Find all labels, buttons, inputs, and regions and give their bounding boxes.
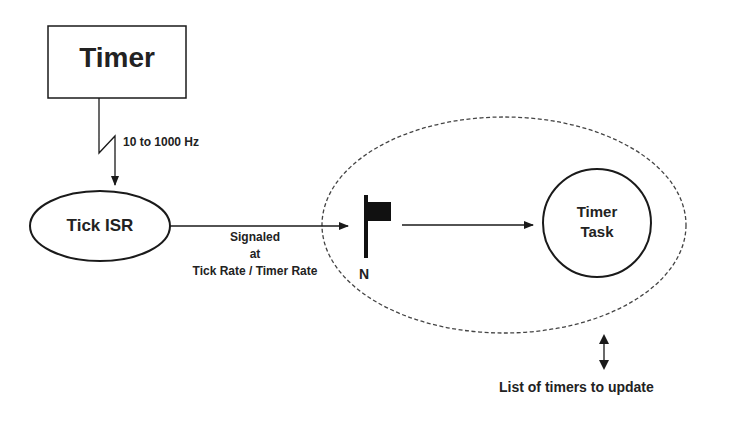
frequency-label: 10 to 1000 Hz [123,135,199,149]
bidirectional-arrow [599,334,609,370]
flag-icon [364,195,391,258]
timer-task-label-line2: Task [543,222,651,242]
flag-label: N [359,266,369,282]
tick-isr-label: Tick ISR [30,216,170,236]
timer-list-label: List of timers to update [499,379,654,395]
signal-label-line1: Signaled [170,229,340,246]
signal-label-line3: Tick Rate / Timer Rate [170,263,340,280]
interrupt-connector [99,98,115,185]
signal-label-line2: at [170,246,340,263]
signal-label: Signaled at Tick Rate / Timer Rate [170,229,340,280]
timer-task-label-line1: Timer [543,202,651,222]
timer-task-label: Timer Task [543,202,651,242]
timer-box-label: Timer [48,42,186,74]
